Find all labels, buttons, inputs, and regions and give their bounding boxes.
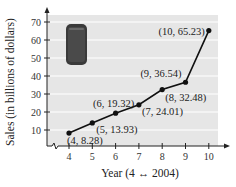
- data-point: [160, 87, 165, 92]
- y-axis-title: Sales (in billions of dollars): [4, 18, 17, 146]
- data-point: [206, 28, 211, 33]
- point-label: (4, 8.28): [67, 135, 103, 147]
- x-tick-label: 8: [160, 151, 165, 162]
- point-label: (9, 36.54): [140, 68, 182, 80]
- point-label: (5, 13.93): [96, 124, 138, 136]
- y-tick-label: 20: [31, 107, 41, 118]
- x-axis-arrow-icon: [224, 144, 230, 149]
- data-point: [113, 111, 118, 116]
- sales-line-chart: 10203040506070 45678910 (4, 8.28)(5, 13.…: [0, 0, 236, 187]
- point-label: (6, 19.32): [93, 98, 135, 110]
- phone-highlight: [69, 28, 84, 30]
- x-tick-label: 7: [136, 151, 141, 162]
- data-point: [90, 120, 95, 125]
- x-tick-label: 4: [67, 151, 72, 162]
- y-tick-label: 70: [31, 17, 41, 28]
- point-label: (10, 65.23): [158, 26, 205, 38]
- point-label: (7, 24.01): [142, 106, 184, 118]
- data-point: [136, 102, 141, 107]
- x-tick-label: 9: [183, 151, 188, 162]
- y-tick-label: 60: [31, 35, 41, 46]
- y-axis-arrow-icon: [45, 7, 50, 13]
- y-tick-label: 50: [31, 53, 41, 64]
- x-tick-label: 5: [90, 151, 95, 162]
- point-label: (8, 32.48): [165, 92, 207, 104]
- x-tick-label: 10: [204, 151, 214, 162]
- data-point: [183, 80, 188, 85]
- y-tick-label: 10: [31, 125, 41, 136]
- y-tick-label: 40: [31, 71, 41, 82]
- x-tick-label: 6: [113, 151, 118, 162]
- phone-screen: [68, 27, 85, 62]
- y-tick-label: 30: [31, 89, 41, 100]
- smartphone-icon: [66, 24, 87, 65]
- x-axis-title: Year (4 ↔ 2004): [101, 167, 179, 180]
